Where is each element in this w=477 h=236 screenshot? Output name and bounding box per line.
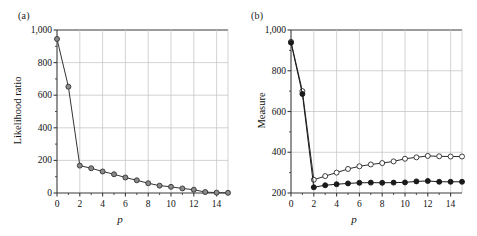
x-tick-label: 0 — [55, 199, 60, 209]
x-tick-label: 14 — [446, 199, 456, 209]
data-point-marker — [414, 155, 419, 160]
data-point-marker — [334, 182, 339, 187]
data-point-marker — [391, 159, 396, 164]
figure-container: (a) Likelihood ratio p 02004006008001,00… — [0, 0, 477, 236]
data-point-marker — [77, 163, 82, 168]
data-point-marker — [357, 164, 362, 169]
data-point-marker — [403, 180, 408, 185]
chart-panel-b: (b) Measure p 2004006008001,000024681012… — [239, 0, 477, 236]
data-point-marker — [437, 154, 442, 159]
y-tick-label: 400 — [249, 147, 286, 157]
data-point-marker — [346, 166, 351, 171]
plot-area-a — [0, 0, 238, 236]
y-tick-label: 800 — [15, 58, 52, 68]
data-point-marker — [414, 179, 419, 184]
x-tick-label: 10 — [400, 199, 410, 209]
data-point-marker — [323, 183, 328, 188]
x-tick-label: 8 — [380, 199, 385, 209]
x-tick-label: 6 — [357, 199, 362, 209]
data-point-marker — [169, 184, 174, 189]
data-point-marker — [191, 187, 196, 192]
y-tick-label: 0 — [15, 188, 52, 198]
x-tick-label: 10 — [166, 199, 176, 209]
series-line — [291, 43, 462, 188]
data-point-marker — [380, 180, 385, 185]
data-point-marker — [311, 177, 316, 182]
data-point-marker — [146, 181, 151, 186]
y-tick-label: 1,000 — [15, 25, 52, 35]
x-tick-label: 2 — [311, 199, 316, 209]
data-point-marker — [391, 180, 396, 185]
data-point-marker — [157, 183, 162, 188]
data-point-marker — [123, 175, 128, 180]
data-point-marker — [425, 178, 430, 183]
data-point-marker — [448, 154, 453, 159]
x-tick-label: 6 — [123, 199, 128, 209]
data-point-marker — [323, 174, 328, 179]
y-tick-label: 200 — [249, 188, 286, 198]
data-point-marker — [460, 154, 465, 159]
data-point-marker — [180, 186, 185, 191]
data-point-marker — [214, 190, 219, 195]
data-point-marker — [66, 84, 71, 89]
x-tick-label: 4 — [100, 199, 105, 209]
data-point-marker — [460, 179, 465, 184]
data-point-marker — [226, 190, 231, 195]
x-tick-label: 12 — [189, 199, 199, 209]
x-tick-label: 0 — [289, 199, 294, 209]
data-point-marker — [334, 170, 339, 175]
data-point-marker — [448, 179, 453, 184]
data-point-marker — [368, 162, 373, 167]
data-point-marker — [380, 161, 385, 166]
data-point-marker — [357, 180, 362, 185]
x-tick-label: 4 — [334, 199, 339, 209]
x-tick-label: 14 — [212, 199, 222, 209]
x-tick-label: 12 — [423, 199, 433, 209]
data-point-marker — [100, 169, 105, 174]
y-tick-label: 800 — [249, 66, 286, 76]
series-line — [57, 39, 228, 193]
y-tick-label: 600 — [15, 90, 52, 100]
data-point-marker — [311, 185, 316, 190]
y-tick-label: 1,000 — [249, 25, 286, 35]
series-line — [291, 42, 462, 180]
x-tick-label: 2 — [77, 199, 82, 209]
x-tick-label: 8 — [146, 199, 151, 209]
data-point-marker — [134, 178, 139, 183]
y-tick-label: 200 — [15, 155, 52, 165]
data-point-marker — [112, 172, 117, 177]
y-tick-label: 600 — [249, 107, 286, 117]
data-point-marker — [403, 156, 408, 161]
data-point-marker — [55, 36, 60, 41]
data-point-marker — [300, 91, 305, 96]
data-point-marker — [89, 166, 94, 171]
chart-panel-a: (a) Likelihood ratio p 02004006008001,00… — [0, 0, 238, 236]
data-point-marker — [368, 180, 373, 185]
data-point-marker — [437, 179, 442, 184]
data-point-marker — [289, 40, 294, 45]
data-point-marker — [203, 190, 208, 195]
data-point-marker — [346, 181, 351, 186]
y-tick-label: 400 — [15, 123, 52, 133]
data-point-marker — [425, 153, 430, 158]
